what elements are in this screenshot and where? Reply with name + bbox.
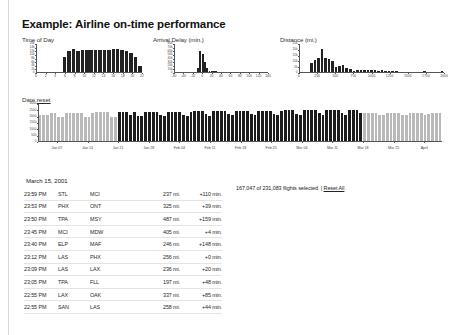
- bar: [371, 113, 374, 142]
- bar: [163, 116, 166, 142]
- table-row: 23:05 PMTPAFLL197 mi.+48 min.: [24, 276, 222, 289]
- bar: [363, 113, 366, 142]
- y-tick-mark: [298, 44, 299, 45]
- x-tick-mark: [353, 73, 354, 74]
- cell-time: 23:50 PM: [24, 213, 58, 226]
- x-tick-label: 2000: [435, 75, 453, 79]
- bar: [352, 110, 355, 142]
- bar: [307, 110, 310, 142]
- bar: [216, 111, 219, 142]
- y-tick-mark: [37, 136, 38, 137]
- date-tick-label: Feb 11: [199, 146, 221, 150]
- bar: [224, 111, 227, 142]
- y-tick-mark: [173, 66, 174, 67]
- x-tick-mark: [390, 73, 391, 74]
- cell-time: 23:05 PM: [24, 276, 58, 289]
- date-tick-mark: [332, 142, 333, 143]
- cell-origin: MCI: [58, 225, 90, 238]
- cell-dest: PHX: [90, 250, 136, 263]
- bar: [107, 50, 110, 73]
- y-tick-mark: [37, 142, 38, 143]
- bar: [208, 116, 211, 142]
- bar: [67, 51, 70, 73]
- y-tick-label: 2500: [22, 109, 37, 112]
- status-text: 167,047 of 231,083 flights selected. |: [236, 185, 322, 191]
- bar: [103, 112, 106, 142]
- cell-origin: TPA: [58, 276, 90, 289]
- cell-time: 23:09 PM: [24, 263, 58, 276]
- bar: [110, 117, 113, 142]
- bar: [331, 61, 334, 73]
- date-tick-label: Feb 25: [260, 146, 282, 150]
- cell-delay: +0 min.: [180, 250, 222, 263]
- bar: [106, 112, 109, 142]
- bar: [171, 112, 174, 142]
- cell-origin: LAX: [58, 288, 90, 301]
- bar: [182, 115, 185, 142]
- cell-delay: +159 min.: [180, 213, 222, 226]
- bar: [254, 115, 257, 142]
- y-tick-mark: [35, 62, 36, 63]
- cell-time: 23:59 PM: [24, 188, 58, 200]
- date-tick-mark: [118, 142, 119, 143]
- bar: [76, 51, 79, 73]
- bar: [81, 50, 84, 73]
- y-tick-mark: [298, 56, 299, 57]
- table-row: 23:12 PMLASPHX256 mi.+0 min.: [24, 250, 222, 263]
- cell-dest: OAK: [90, 288, 136, 301]
- x-tick-label: 1000: [363, 75, 381, 79]
- bar: [212, 111, 215, 142]
- y-tick-label: 3000: [22, 102, 37, 105]
- reset-all-link[interactable]: Reset All: [324, 185, 345, 191]
- y-tick-label: 1500: [22, 121, 37, 124]
- x-tick-mark: [317, 73, 318, 74]
- bar: [89, 50, 92, 73]
- bar: [273, 114, 276, 142]
- bar: [333, 110, 336, 142]
- cell-origin: STL: [58, 188, 90, 200]
- date-tick-mark: [241, 142, 242, 143]
- x-tick-label: 0: [290, 75, 308, 79]
- chart-distance[interactable]: 25k20k15k10k5k00250500750100012501500175…: [286, 44, 444, 80]
- bar: [322, 115, 325, 142]
- bar: [112, 49, 115, 73]
- date-reset-link[interactable]: reset: [37, 96, 51, 103]
- chart-arrival-delay[interactable]: 80k70k60k50k40k30k20k10k0-60-40-20020406…: [160, 44, 268, 80]
- y-tick-mark: [173, 69, 174, 70]
- bar: [201, 111, 204, 142]
- x-tick-mark: [335, 73, 336, 74]
- bar: [94, 50, 97, 73]
- bar: [98, 50, 101, 73]
- bar: [231, 115, 234, 142]
- cell-delay: +4 min.: [180, 225, 222, 238]
- chart-date-timeline[interactable]: 300025002000150010005000Jan 07Jan 14Jan …: [22, 104, 442, 152]
- cell-distance: 325 mi.: [136, 200, 180, 213]
- bar: [382, 115, 385, 142]
- y-tick-label: 1000: [22, 128, 37, 131]
- table-date-header: March 15, 2001: [26, 178, 68, 184]
- y-axis-line: [299, 44, 300, 73]
- bar: [167, 112, 170, 142]
- cell-origin: LAS: [58, 250, 90, 263]
- y-axis-line: [36, 44, 37, 73]
- date-tick-label: Jan 21: [107, 146, 129, 150]
- bar: [318, 113, 321, 142]
- date-tick-mark: [149, 142, 150, 143]
- table-row: 23:45 PMMCIMDW405 mi.+4 min.: [24, 225, 222, 238]
- bar: [250, 114, 253, 142]
- bar: [378, 115, 381, 142]
- cell-delay: +44 min.: [180, 301, 222, 314]
- bar: [63, 57, 66, 73]
- cell-time: 22:55 PM: [24, 301, 58, 314]
- date-tick-mark: [179, 142, 180, 143]
- cell-dest: LAX: [90, 263, 136, 276]
- chart-time-of-day[interactable]: 16k14k12k10k8k6k4k2k00246810121416182022: [22, 44, 142, 80]
- y-tick-mark: [173, 55, 174, 56]
- bar: [120, 50, 123, 73]
- bar: [235, 111, 238, 142]
- cell-dest: MSY: [90, 213, 136, 226]
- date-tick-mark: [57, 142, 58, 143]
- bar: [227, 114, 230, 142]
- x-tick-mark: [408, 73, 409, 74]
- x-tick-label: 1250: [381, 75, 399, 79]
